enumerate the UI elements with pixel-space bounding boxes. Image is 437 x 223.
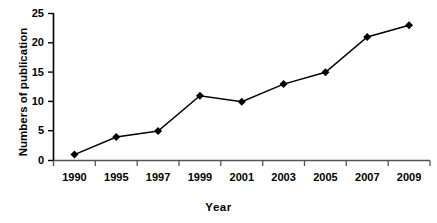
x-axis-ticks (54, 161, 431, 167)
data-point-marker (405, 21, 413, 29)
data-point-marker (238, 98, 246, 106)
x-tick-label-1997: 1997 (137, 172, 179, 183)
chart-plot-area (0, 0, 437, 223)
data-point-marker (280, 80, 288, 88)
x-tick-label-2007: 2007 (346, 172, 388, 183)
data-point-marker (70, 151, 78, 159)
x-tick-label-2003: 2003 (263, 172, 305, 183)
line-chart: 25 20 15 10 5 0 1990 1995 1997 1999 2001… (0, 0, 437, 223)
x-tick-label-1995: 1995 (95, 172, 137, 183)
y-axis-ticks (48, 14, 54, 161)
data-point-marker (112, 133, 120, 141)
x-tick-label-2001: 2001 (221, 172, 263, 183)
x-tick-label-1999: 1999 (179, 172, 221, 183)
x-tick-label-1990: 1990 (53, 172, 95, 183)
x-axis-title: Year (0, 201, 437, 213)
x-tick-label-2005: 2005 (304, 172, 346, 183)
y-axis-title: Numbers of publication (17, 12, 29, 172)
data-series-line (74, 25, 409, 154)
x-tick-label-2009: 2009 (388, 172, 430, 183)
